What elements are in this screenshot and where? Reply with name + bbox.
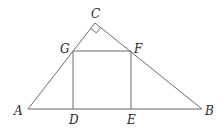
- segment-AC: [28, 23, 95, 109]
- right-angle-marker: [91, 27, 101, 33]
- label-F: F: [133, 42, 143, 56]
- label-A: A: [13, 104, 23, 118]
- label-D: D: [68, 113, 79, 127]
- geometry-diagram: C G F A B D E: [0, 0, 224, 131]
- segment-CB: [95, 23, 202, 109]
- label-E: E: [126, 113, 136, 127]
- label-G: G: [60, 42, 70, 56]
- label-C: C: [91, 7, 100, 21]
- label-B: B: [204, 104, 214, 118]
